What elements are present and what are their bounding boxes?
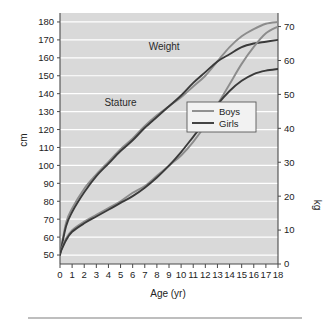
- y-axis-left-tick-label: 60: [43, 232, 54, 243]
- chart-legend[interactable]: Boys Girls: [187, 102, 256, 132]
- x-axis-tick-label: 13: [212, 269, 223, 280]
- x-axis-tick-label: 6: [130, 269, 135, 280]
- y-axis-right-tick-label: 30: [284, 157, 295, 168]
- y-axis-right-tick-label: 60: [284, 55, 295, 66]
- growth-chart-figure: 5060708090100110120130140150160170180 01…: [0, 0, 330, 328]
- y-axis-left-tick-label: 50: [43, 249, 54, 260]
- x-axis-tick-label: 1: [69, 269, 74, 280]
- y-axis-left-tick-label: 90: [43, 178, 54, 189]
- weight-annotation: Weight: [149, 41, 180, 52]
- legend-label-girls: Girls: [219, 118, 239, 129]
- y-axis-right-tick-label: 70: [284, 21, 295, 32]
- x-axis-tick-label: 3: [94, 269, 99, 280]
- x-axis-tick-label: 8: [154, 269, 159, 280]
- x-axis-title: Age (yr): [150, 288, 186, 299]
- y-axis-left-tick-label: 150: [38, 70, 54, 81]
- stature-annotation: Stature: [104, 97, 137, 108]
- x-axis-tick-label: 0: [57, 269, 62, 280]
- x-axis-tick-label: 12: [200, 269, 211, 280]
- y-axis-left-tick-label: 130: [38, 106, 54, 117]
- y-axis-right-tick-label: 20: [284, 191, 295, 202]
- x-axis-tick-label: 9: [166, 269, 171, 280]
- y-axis-right-tick-label: 10: [284, 224, 295, 235]
- y-axis-left-tick-label: 70: [43, 214, 54, 225]
- x-axis-tick-label: 17: [261, 269, 272, 280]
- y-axis-left-tick-label: 180: [38, 16, 54, 27]
- y-axis-left-title: cm: [18, 133, 29, 146]
- y-axis-left-tick-label: 120: [38, 124, 54, 135]
- y-axis-left-tick-label: 80: [43, 196, 54, 207]
- x-axis-tick-label: 5: [118, 269, 123, 280]
- y-axis-right-tick-label: 40: [284, 123, 295, 134]
- y-axis-right-tick-label: 0: [284, 258, 289, 269]
- legend-label-boys: Boys: [219, 106, 240, 117]
- y-axis-left-tick-label: 140: [38, 88, 54, 99]
- x-axis-tick-label: 4: [106, 269, 111, 280]
- y-axis-right-title: kg: [312, 200, 323, 211]
- x-axis-tick-label: 7: [142, 269, 147, 280]
- x-axis-tick-label: 14: [224, 269, 235, 280]
- x-axis-tick-label: 2: [82, 269, 87, 280]
- x-axis-tick-label: 10: [176, 269, 187, 280]
- y-axis-right-tick-label: 50: [284, 89, 295, 100]
- y-axis-left-tick-label: 110: [39, 142, 54, 153]
- x-axis-tick-label: 15: [236, 269, 247, 280]
- y-axis-left-tick-label: 170: [38, 34, 54, 45]
- x-axis-tick-label: 16: [248, 269, 259, 280]
- x-axis-tick-label: 11: [188, 269, 198, 280]
- y-axis-left-tick-label: 160: [38, 52, 54, 63]
- chart-canvas: 5060708090100110120130140150160170180 01…: [0, 0, 330, 328]
- y-axis-left-tick-label: 100: [38, 160, 54, 171]
- x-axis-tick-label: 18: [273, 269, 284, 280]
